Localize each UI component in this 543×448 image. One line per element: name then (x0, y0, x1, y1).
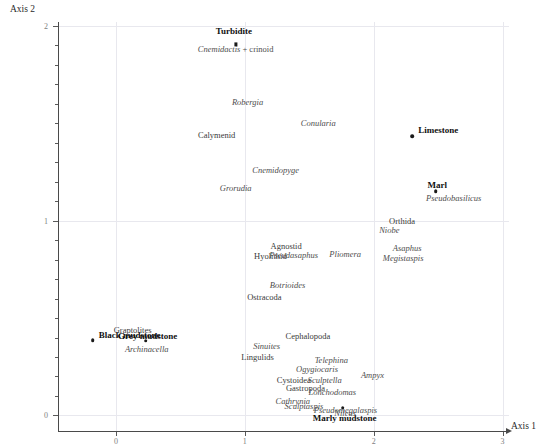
x-tick-label: 0 (105, 437, 127, 446)
gridline-horizontal (58, 26, 509, 27)
taxon-label-orthida: Orthida (389, 217, 415, 226)
x-axis-arrow-icon (506, 428, 512, 434)
y-axis-title: Axis 2 (10, 4, 35, 14)
gridline-vertical (245, 22, 246, 432)
taxon-label-sinuites: Sinuites (253, 342, 280, 351)
taxon-label-ogygiocaris: Ogygiocaris (296, 365, 338, 374)
site-label-turbidite: Turbidite (216, 27, 252, 36)
taxon-label-graptolites: Graptolites (114, 326, 152, 335)
taxon-label-calymenid: Calymenid (198, 131, 235, 140)
taxon-label-conularia: Conularia (301, 119, 336, 128)
taxon-label-botrioides: Botrioides (270, 281, 305, 290)
taxon-label-lonchodomas: Lonchodomas (308, 388, 356, 397)
taxon-label-megistaspis: Megistaspis (383, 254, 424, 263)
taxon-label-cnemidactis-crinoid: Cnemidactis + crinoid (198, 45, 274, 54)
taxon-label-ampyx: Ampyx (361, 371, 384, 380)
gridline-horizontal (58, 221, 509, 222)
x-tick-label: 2 (363, 437, 385, 446)
taxon-label-robergia: Robergia (232, 98, 263, 107)
taxon-label-pseudobasilicus: Pseudobasilicus (426, 194, 481, 203)
x-tick-label: 1 (234, 437, 256, 446)
taxon-label-cnemidopyge: Cnemidopyge (252, 166, 299, 175)
y-tick-label: 0 (26, 411, 48, 420)
taxon-label-nileus: Nileus (334, 409, 356, 418)
taxon-label-niobe: Niobe (379, 226, 399, 235)
y-axis-line (58, 22, 59, 432)
taxon-label-archinacella: Archinacella (125, 345, 169, 354)
y-tick-label: 1 (26, 217, 48, 226)
taxon-label-cephalopoda: Cephalopoda (285, 332, 330, 341)
site-label-limestone: Limestone (418, 126, 458, 135)
y-tick-label: 2 (26, 22, 48, 31)
gridline-vertical (116, 22, 117, 432)
site-point-limestone (411, 134, 415, 138)
taxon-label-pliomera: Pliomera (329, 250, 361, 259)
site-point-black-mudstone (91, 339, 95, 343)
taxon-label-lingulids: Lingulids (241, 353, 274, 362)
taxon-label-hyolithid: Hyolithid (254, 252, 287, 261)
taxon-label-ostracoda: Ostracoda (247, 293, 281, 302)
x-tick-label: 3 (492, 437, 514, 446)
site-label-marl: Marl (428, 181, 448, 190)
gridline-vertical (503, 22, 504, 432)
x-axis-title: Axis 1 (511, 421, 536, 431)
scatter-plot: Axis 2 Axis 1 0123012 TurbiditeLimestone… (0, 0, 543, 448)
taxon-label-asaphus: Asaphus (393, 244, 422, 253)
taxon-label-grorudia: Grorudia (220, 184, 252, 193)
x-axis-line (58, 431, 509, 432)
gridline-horizontal (58, 415, 509, 416)
